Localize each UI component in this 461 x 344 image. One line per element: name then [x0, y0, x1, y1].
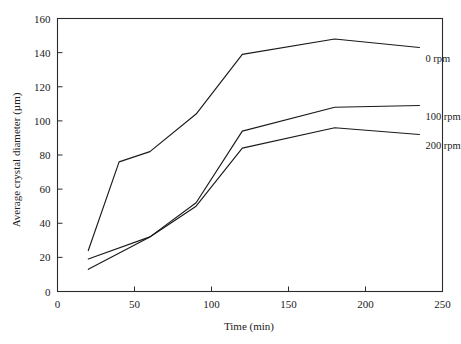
y-tick-label: 160: [34, 13, 51, 25]
series-line: [88, 128, 419, 270]
y-tick-label: 60: [40, 183, 52, 195]
data-series-group: [88, 39, 419, 269]
plot-frame: [58, 19, 443, 292]
series-line: [88, 39, 419, 251]
x-tick-label: 0: [55, 298, 61, 310]
x-tick-label: 250: [434, 298, 451, 310]
y-tick-label: 80: [40, 149, 52, 161]
x-axis-ticks: 050100150200250: [55, 287, 452, 310]
y-tick-label: 40: [40, 217, 52, 229]
x-tick-label: 150: [280, 298, 297, 310]
series-label-0-rpm: 0 rpm: [425, 53, 450, 64]
series-label-200-rpm: 200 rpm: [425, 140, 460, 151]
y-tick-label: 0: [45, 286, 51, 298]
y-axis-ticks: 020406080100120140160: [34, 13, 63, 298]
x-axis-title: Time (min): [224, 320, 274, 333]
y-axis-title: Average crystal diameter (µm): [10, 92, 23, 227]
y-tick-label: 120: [34, 81, 51, 93]
chart-canvas: 050100150200250 020406080100120140160 0 …: [0, 0, 461, 344]
x-tick-label: 100: [203, 298, 220, 310]
y-tick-label: 100: [34, 115, 51, 127]
x-tick-label: 200: [357, 298, 374, 310]
line-chart: 050100150200250 020406080100120140160 0 …: [0, 0, 461, 344]
series-label-100-rpm: 100 rpm: [425, 111, 460, 122]
series-line: [88, 106, 419, 260]
y-tick-label: 140: [34, 47, 51, 59]
y-tick-label: 20: [40, 251, 52, 263]
x-tick-label: 50: [129, 298, 141, 310]
